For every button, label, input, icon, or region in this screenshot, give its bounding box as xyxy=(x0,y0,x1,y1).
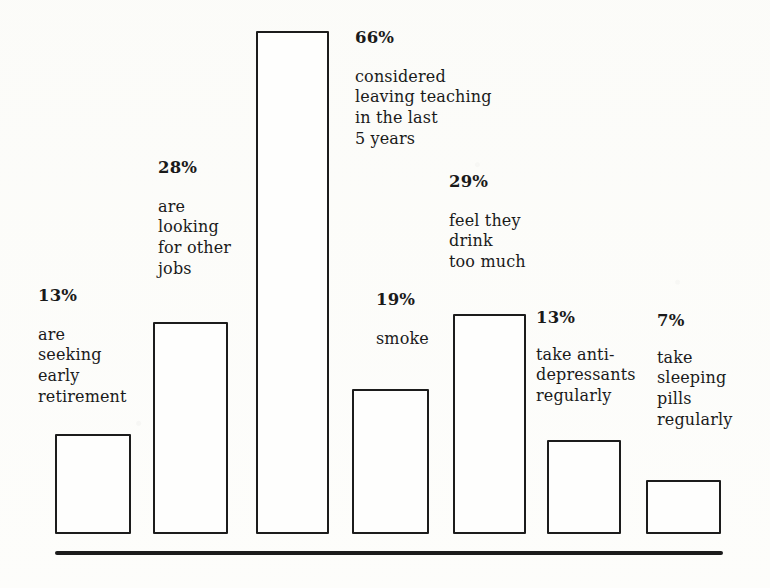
label-group-drink-too-much: 29% feel they drink too much xyxy=(449,174,526,273)
bar-anti-depressants xyxy=(547,440,621,534)
chart-baseline-axis xyxy=(55,551,723,555)
bar-value-label-smoke: 19% xyxy=(376,292,429,309)
bar-value-label-leaving-teaching: 66% xyxy=(355,30,492,47)
bar-smoke xyxy=(352,389,429,534)
bar-value-label-early-retirement: 13% xyxy=(38,288,127,305)
bar-desc-label-smoke: smoke xyxy=(376,329,429,350)
bar-desc-label-other-jobs: are looking for other jobs xyxy=(158,197,231,280)
bar-desc-label-early-retirement: are seeking early retirement xyxy=(38,325,127,408)
bar-desc-label-sleeping-pills: take sleeping pills regularly xyxy=(657,348,732,431)
bar-leaving-teaching xyxy=(256,31,329,534)
label-group-anti-depressants: 13% take anti- depressants regularly xyxy=(536,310,636,407)
label-group-early-retirement: 13% are seeking early retirement xyxy=(38,288,127,408)
bar-desc-label-leaving-teaching: considered leaving teaching in the last … xyxy=(355,67,492,150)
bar-desc-label-drink-too-much: feel they drink too much xyxy=(449,211,526,273)
label-group-other-jobs: 28% are looking for other jobs xyxy=(158,160,231,280)
bar-other-jobs xyxy=(153,322,228,534)
bar-value-label-other-jobs: 28% xyxy=(158,160,231,177)
bar-early-retirement xyxy=(55,434,131,534)
bar-desc-label-anti-depressants: take anti- depressants regularly xyxy=(536,345,636,407)
label-group-smoke: 19% smoke xyxy=(376,292,429,349)
bar-value-label-drink-too-much: 29% xyxy=(449,174,526,191)
bar-value-label-anti-depressants: 13% xyxy=(536,310,636,327)
chart-page: 13% are seeking early retirement 28% are… xyxy=(0,0,770,588)
label-group-sleeping-pills: 7% take sleeping pills regularly xyxy=(657,313,732,431)
bar-sleeping-pills xyxy=(646,480,721,534)
bar-drink-too-much xyxy=(453,314,526,534)
label-group-leaving-teaching: 66% considered leaving teaching in the l… xyxy=(355,30,492,150)
bar-value-label-sleeping-pills: 7% xyxy=(657,313,732,330)
